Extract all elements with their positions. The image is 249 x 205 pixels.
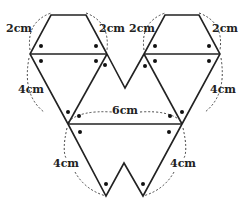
label-bottom-left: 4cm bbox=[53, 158, 79, 169]
label-bottom-right: 4cm bbox=[170, 158, 196, 169]
label-mid-right: 4cm bbox=[210, 84, 236, 95]
label-mid-left: 4cm bbox=[18, 84, 44, 95]
label-middle: 6cm bbox=[112, 105, 138, 116]
label-top-left-left: 2cm bbox=[6, 23, 32, 34]
left-lower-edge bbox=[68, 54, 107, 124]
label-top-right-right: 2cm bbox=[212, 23, 238, 34]
label-top-left-right: 2cm bbox=[99, 23, 125, 34]
geometry-figure: 2cm 2cm 2cm 2cm 4cm 4cm 6cm 4cm 4cm bbox=[0, 0, 249, 205]
right-lower-edge bbox=[144, 54, 182, 124]
label-top-right-left: 2cm bbox=[129, 23, 155, 34]
